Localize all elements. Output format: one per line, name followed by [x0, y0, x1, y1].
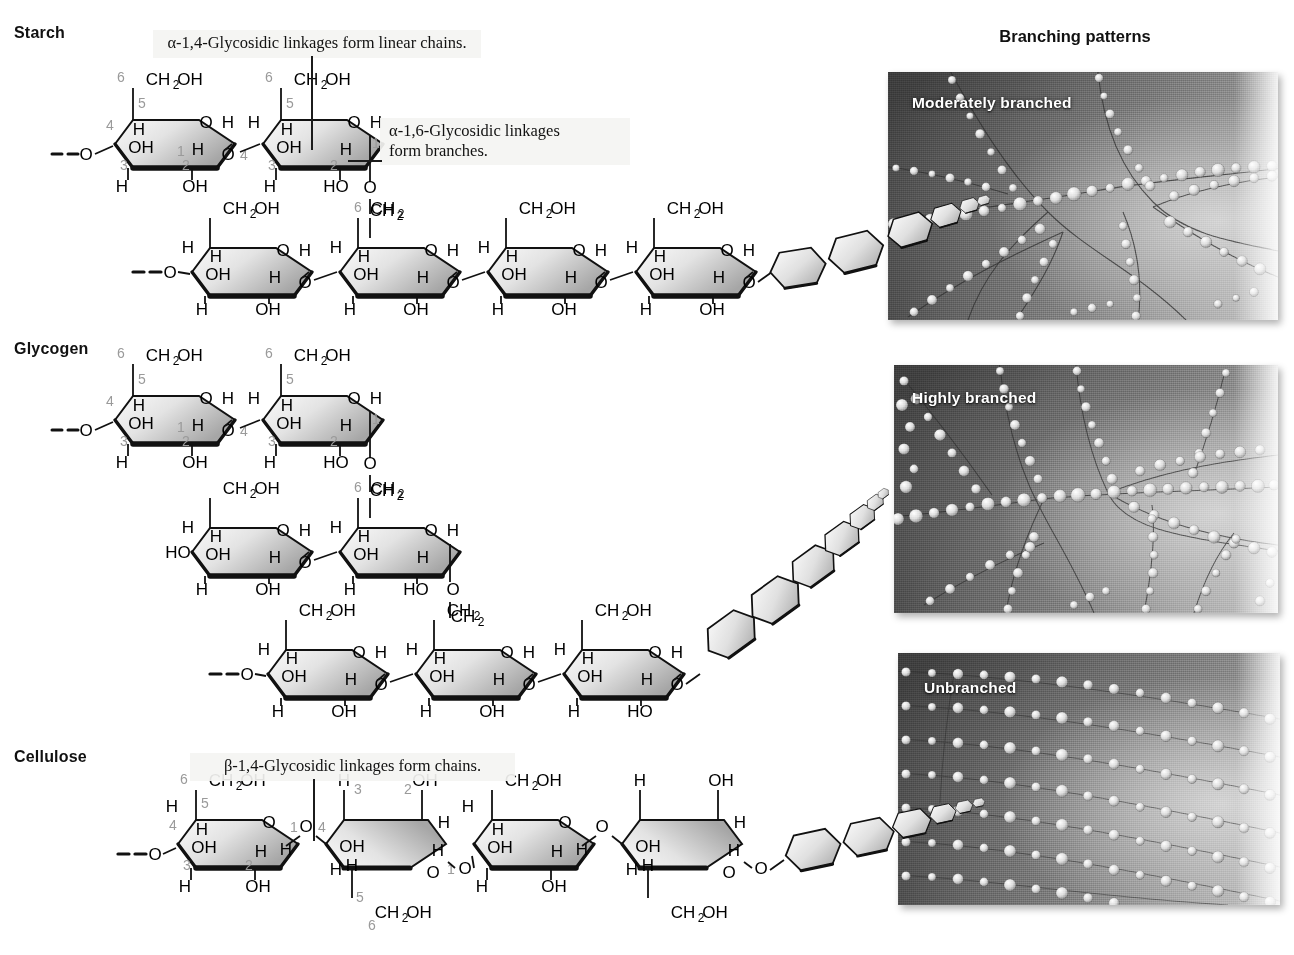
svg-text:O: O [148, 845, 161, 864]
svg-text:6: 6 [265, 345, 273, 361]
svg-text:O: O [500, 643, 513, 662]
svg-text:OH: OH [325, 346, 351, 365]
svg-text:H: H [447, 521, 459, 540]
svg-text:CH: CH [370, 201, 395, 220]
svg-text:H: H [634, 771, 646, 790]
svg-text:OH: OH [281, 667, 307, 686]
svg-text:2: 2 [330, 157, 338, 173]
callout-leader-alpha-1-4 [311, 56, 313, 150]
svg-text:2: 2 [546, 207, 553, 221]
svg-text:2: 2 [622, 609, 629, 623]
svg-text:H: H [420, 702, 432, 721]
svg-text:H: H [299, 521, 311, 540]
starch-lower-chain: O CH2OH HHOH H OH OHH O CH2 HHOH H OH [133, 194, 991, 319]
micrograph-label-moderately-branched: Moderately branched [912, 94, 1072, 112]
svg-text:OH: OH [501, 265, 527, 284]
svg-text:O: O [79, 421, 92, 440]
svg-text:O: O [276, 241, 289, 260]
svg-text:O: O [446, 580, 459, 599]
svg-text:CH: CH [223, 479, 248, 498]
svg-text:OH: OH [255, 300, 281, 319]
svg-text:H: H [734, 813, 746, 832]
svg-text:O: O [742, 273, 755, 292]
svg-text:OH: OH [205, 545, 231, 564]
svg-text:3: 3 [268, 433, 276, 449]
svg-text:OH: OH [276, 414, 302, 433]
svg-text:H: H [565, 268, 577, 287]
svg-text:6: 6 [117, 345, 125, 361]
svg-text:O: O [374, 675, 387, 694]
svg-text:H: H [492, 300, 504, 319]
svg-text:2: 2 [474, 609, 481, 623]
callout-leader-beta-1-4 [313, 779, 315, 841]
svg-text:H: H [196, 300, 208, 319]
callout-alpha-1-6-line2: form branches. [389, 141, 488, 160]
svg-text:OH: OH [403, 300, 429, 319]
svg-text:O: O [558, 813, 571, 832]
glycogen-middle-chain: HO CH2OH HHOH H OH OHH O CH2 HHOH H HO O… [165, 479, 484, 629]
svg-text:H: H [582, 649, 594, 668]
svg-text:H: H [340, 416, 352, 435]
svg-text:H: H [641, 670, 653, 689]
svg-text:OH: OH [699, 300, 725, 319]
svg-text:H: H [272, 702, 284, 721]
svg-text:O: O [199, 389, 212, 408]
callout-beta-1-4: β-1,4-Glycosidic linkages form chains. [190, 753, 515, 781]
svg-text:2: 2 [321, 354, 328, 368]
svg-text:OH: OH [702, 903, 728, 922]
svg-text:H: H [330, 860, 342, 879]
micrograph-right-fade [1234, 365, 1278, 613]
svg-text:OH: OH [708, 771, 734, 790]
svg-text:CH: CH [667, 199, 692, 218]
svg-text:O: O [79, 145, 92, 164]
svg-text:O: O [276, 521, 289, 540]
svg-text:5: 5 [356, 889, 364, 905]
svg-text:5: 5 [286, 95, 294, 111]
svg-text:2: 2 [404, 781, 412, 797]
svg-text:CH: CH [451, 607, 476, 626]
svg-text:H: H [269, 548, 281, 567]
svg-text:O: O [199, 113, 212, 132]
svg-text:H: H [299, 241, 311, 260]
svg-text:H: H [269, 268, 281, 287]
callout-alpha-1-6-line1: α-1,6-Glycosidic linkages [389, 121, 560, 140]
svg-text:1: 1 [177, 143, 185, 159]
svg-text:O: O [424, 521, 437, 540]
svg-text:H: H [743, 241, 755, 260]
svg-text:O: O [458, 859, 471, 878]
svg-text:H: H [551, 842, 563, 861]
svg-text:H: H [133, 396, 145, 415]
svg-text:H: H [210, 527, 222, 546]
section-title-cellulose: Cellulose [14, 748, 87, 766]
svg-text:O: O [424, 241, 437, 260]
svg-text:4: 4 [240, 423, 248, 439]
svg-text:CH: CH [375, 903, 400, 922]
section-title-starch: Starch [14, 24, 65, 42]
svg-text:O: O [572, 241, 585, 260]
glycogen-lower-chain: O CH2OH HHOH H OH OHH O CH2 HHOH H OH OH… [210, 487, 891, 721]
svg-text:H: H [447, 241, 459, 260]
svg-text:CH: CH [299, 601, 324, 620]
svg-text:H: H [358, 527, 370, 546]
cellulose-chain: O 6 CH2OH 5 4 H HOH 3 H 2 OH OH H 1 O 4 [118, 771, 986, 933]
micrograph-unbranched: Unbranched [898, 653, 1280, 905]
svg-text:5: 5 [201, 795, 209, 811]
svg-text:OH: OH [479, 702, 505, 721]
branching-patterns-header: Branching patterns [935, 27, 1215, 46]
svg-text:2: 2 [245, 857, 253, 873]
svg-text:OH: OH [191, 838, 217, 857]
svg-text:H: H [330, 518, 342, 537]
svg-text:2: 2 [398, 207, 405, 221]
svg-text:OH: OH [649, 265, 675, 284]
svg-text:H: H [728, 841, 740, 860]
micrograph-right-fade [1234, 72, 1278, 320]
svg-text:H: H [626, 238, 638, 257]
svg-text:OH: OH [406, 903, 432, 922]
svg-text:2: 2 [250, 207, 257, 221]
svg-text:OH: OH [254, 479, 280, 498]
svg-text:HO: HO [627, 702, 653, 721]
svg-text:O: O [240, 665, 253, 684]
svg-text:CH: CH [294, 346, 319, 365]
svg-text:O: O [298, 273, 311, 292]
svg-text:4: 4 [318, 819, 326, 835]
